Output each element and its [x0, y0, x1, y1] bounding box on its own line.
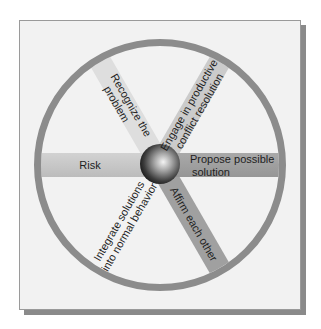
wheel-diagram-svg: Risk Recognize the problem Engage in pro…	[0, 0, 321, 329]
label-risk: Risk	[79, 159, 101, 171]
wheel-diagram: Risk Recognize the problem Engage in pro…	[0, 0, 321, 329]
hub-sphere	[140, 144, 180, 184]
label-propose-line1: Propose possible	[190, 153, 274, 165]
label-propose-line2: solution	[192, 166, 230, 178]
